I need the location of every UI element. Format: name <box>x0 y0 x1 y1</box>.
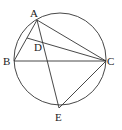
circumcircle <box>14 13 106 105</box>
label-e: E <box>55 111 62 123</box>
segment-ae <box>37 20 59 108</box>
label-a: A <box>30 7 38 19</box>
segment-ce <box>59 61 106 108</box>
segment-ac <box>37 20 106 61</box>
geometry-diagram: A B C D E <box>0 0 122 130</box>
label-d: D <box>34 41 42 53</box>
label-c: C <box>107 55 114 67</box>
label-b: B <box>3 55 10 67</box>
